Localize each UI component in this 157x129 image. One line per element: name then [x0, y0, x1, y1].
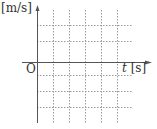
y-axis-label: [m/s] [1, 1, 32, 15]
origin-label: O [26, 62, 36, 76]
vt-graph: [m/s] O t [s] [0, 0, 157, 129]
x-axis-label: t [s] [122, 61, 146, 75]
y-axis-arrow-icon [36, 5, 40, 11]
x-axis-variable: t [122, 61, 127, 75]
x-axis-unit: [s] [131, 61, 147, 75]
grid-lines [37, 10, 132, 123]
